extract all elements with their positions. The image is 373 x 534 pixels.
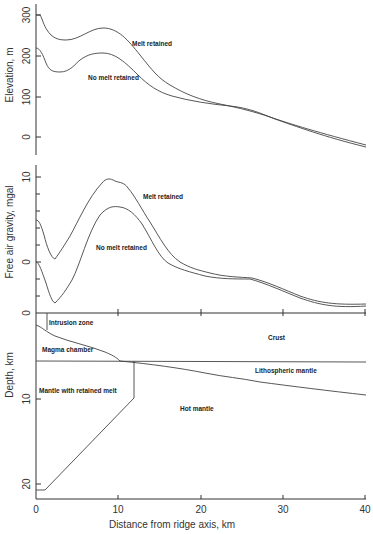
- mantle-retained-melt-label: Mantle with retained melt: [39, 387, 117, 394]
- no-melt-retained-elevation-curve: [36, 48, 366, 147]
- tick-label: 200: [21, 47, 32, 64]
- hot-mantle-label: Hot mantle: [180, 405, 214, 412]
- tick-label: 0: [21, 259, 32, 265]
- x-tick-label: 30: [277, 504, 289, 515]
- tick-label: 300: [21, 6, 32, 23]
- melt-retained-label: Melt retained: [132, 40, 172, 47]
- depth-axis-label: Depth, km: [4, 352, 15, 398]
- retained-melt-zone-boundary: [36, 361, 134, 490]
- elevation-panel: 300 200 100 0 Elevation, m Melt retained…: [4, 4, 366, 155]
- tick-label: 100: [21, 88, 32, 105]
- gravity-axis-label: Free air gravity, mgal: [4, 185, 15, 278]
- melt-retained-elevation-curve: [36, 15, 366, 145]
- tick-label: 0: [21, 310, 32, 316]
- melt-retained-label-2: Melt retained: [143, 193, 183, 200]
- tick-label: 10: [21, 393, 32, 405]
- no-melt-retained-label-2: No melt retained: [96, 244, 147, 251]
- no-melt-retained-gravity-curve: [36, 207, 366, 307]
- no-melt-retained-label: No melt retained: [88, 74, 139, 81]
- tick-label: 20: [21, 478, 32, 490]
- x-tick-label: 10: [112, 504, 124, 515]
- x-axis-label: Distance from ridge axis, km: [109, 519, 235, 530]
- tick-label: 10: [21, 171, 32, 183]
- moho-line: [36, 361, 366, 362]
- melt-retained-gravity-curve: [36, 179, 366, 304]
- crust-label: Crust: [268, 334, 286, 341]
- figure: 300 200 100 0 Elevation, m Melt retained…: [0, 0, 373, 534]
- tick-label: 0: [21, 134, 32, 140]
- intrusion-zone-label: Intrusion zone: [49, 319, 94, 326]
- gravity-panel: 10 0 Free air gravity, mgal Melt retaine…: [4, 165, 366, 313]
- lithospheric-mantle-label: Lithospheric mantle: [255, 367, 317, 375]
- magma-chamber-roof: [36, 325, 120, 361]
- cross-section-panel: 0 10 20 Depth, km 0 10 20 30 40 Distance…: [4, 309, 371, 530]
- x-tick-label: 20: [195, 504, 207, 515]
- lithosphere-base: [120, 361, 366, 395]
- x-tick-label: 0: [33, 504, 39, 515]
- x-tick-label: 40: [359, 504, 371, 515]
- magma-chamber-label: Magma chamber: [42, 346, 94, 354]
- elevation-axis-label: Elevation, m: [4, 47, 15, 102]
